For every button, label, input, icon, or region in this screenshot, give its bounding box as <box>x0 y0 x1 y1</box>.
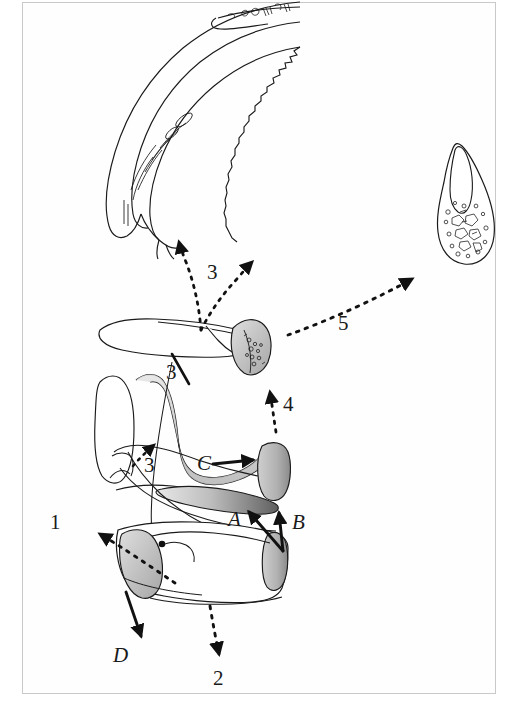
jaw-texture-striations <box>124 111 194 226</box>
annotation-label-1: 1 <box>50 512 61 533</box>
right-transverse-process-upper <box>258 443 291 501</box>
annotation-label-C: C <box>197 453 211 474</box>
leader-2-dotted <box>210 606 219 654</box>
anatomical-drawing-canvas <box>0 0 519 714</box>
leader-D-solid <box>126 592 141 636</box>
condyle-textured-group <box>231 320 271 375</box>
annotation-label-A: A <box>228 509 241 530</box>
intervertebral-disc-shading <box>156 486 278 514</box>
annotation-label-D: D <box>113 645 128 666</box>
left-slender-process <box>95 376 134 483</box>
jaw-tip-lower <box>141 214 177 248</box>
nutrient-foramen-dot <box>159 541 166 548</box>
jaw-serration-teeth <box>224 47 300 242</box>
annotation-label-2: 2 <box>213 668 224 689</box>
annotation-label-5: 5 <box>338 313 349 334</box>
leader-C-solid <box>213 460 253 464</box>
inset-bone-detail-group <box>437 144 494 265</box>
annotation-label-3a: 3 <box>207 262 218 283</box>
annotation-label-4: 4 <box>283 394 294 415</box>
annotation-label-3c: 3 <box>144 455 155 476</box>
central-body-group <box>95 362 291 547</box>
leader-3a-left-dotted <box>179 242 201 330</box>
curved-jaw-arc-group <box>106 2 300 259</box>
jaw-tip-notch-left <box>157 240 159 259</box>
figure-root: 1 2 3 3 3 4 5 A B C D <box>0 0 519 714</box>
jaw-outer-edge <box>106 2 300 238</box>
annotation-label-3b: 3 <box>166 362 177 383</box>
leader-5-dotted <box>288 279 412 335</box>
annotation-label-B: B <box>292 512 305 533</box>
lower-body-group <box>116 522 288 604</box>
leader-4-dotted <box>270 392 276 432</box>
